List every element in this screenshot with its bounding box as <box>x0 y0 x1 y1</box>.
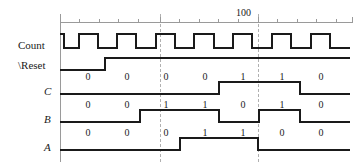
value-a-0: 0 <box>81 128 95 138</box>
signal-label-reset: \Reset <box>18 60 46 71</box>
value-b-3: 1 <box>198 100 212 110</box>
signal-label-b: B <box>44 114 51 125</box>
signal-label-c: C <box>44 86 51 97</box>
waveform-a <box>60 138 350 150</box>
waveform-b <box>60 110 350 122</box>
waveform-reset <box>60 58 350 70</box>
guide-lines-layer <box>60 14 258 162</box>
waveform-canvas <box>0 0 356 164</box>
signal-label-a: A <box>44 142 51 153</box>
value-b-2: 1 <box>159 100 173 110</box>
value-c-5: 1 <box>275 72 289 82</box>
value-a-1: 0 <box>120 128 134 138</box>
value-b-5: 1 <box>275 100 289 110</box>
waveform-count <box>60 34 350 48</box>
waveform-c <box>60 82 350 94</box>
value-c-2: 0 <box>159 72 173 82</box>
value-a-4: 1 <box>236 128 250 138</box>
value-c-6: 0 <box>314 72 328 82</box>
value-c-3: 0 <box>198 72 212 82</box>
value-b-0: 0 <box>81 100 95 110</box>
value-a-6: 0 <box>314 128 328 138</box>
value-a-3: 1 <box>198 128 212 138</box>
value-c-4: 1 <box>236 72 250 82</box>
value-b-1: 0 <box>120 100 134 110</box>
value-a-2: 0 <box>159 128 173 138</box>
value-c-1: 0 <box>120 72 134 82</box>
value-c-0: 0 <box>81 72 95 82</box>
ruler-layer <box>60 17 352 23</box>
value-b-4: 0 <box>236 100 250 110</box>
value-b-6: 0 <box>314 100 328 110</box>
signal-label-count: Count <box>18 40 45 51</box>
value-a-5: 0 <box>275 128 289 138</box>
ruler-tick-label-100: 100 <box>236 8 251 18</box>
timing-diagram: Count\ResetCBA 000011000110100001100 100 <box>0 0 356 164</box>
